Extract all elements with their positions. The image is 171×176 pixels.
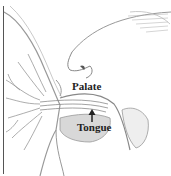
palate-label: Palate (72, 80, 101, 92)
tongue-label: Tongue (77, 121, 111, 133)
